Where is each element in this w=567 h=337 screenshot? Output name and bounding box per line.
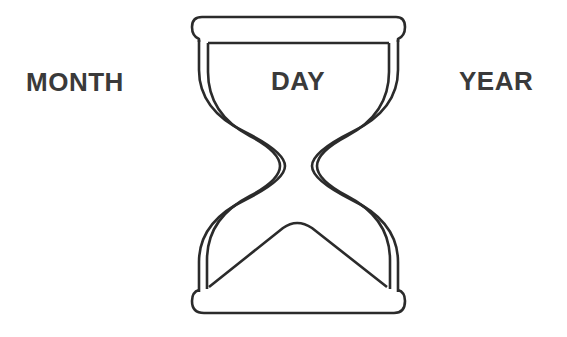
- hourglass-icon: [0, 0, 567, 337]
- month-label: MONTH: [26, 67, 124, 98]
- day-label: DAY: [271, 66, 325, 97]
- year-label: YEAR: [459, 66, 533, 97]
